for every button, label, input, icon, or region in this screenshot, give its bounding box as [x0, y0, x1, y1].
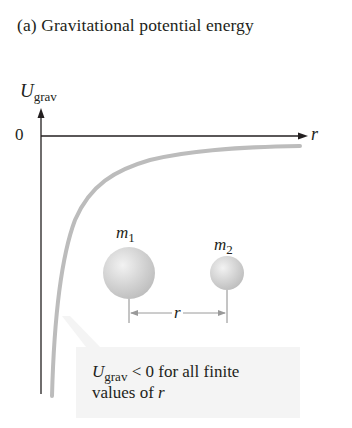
y-axis-label: Ugrav [20, 80, 57, 102]
x-axis-arrow-icon [298, 133, 308, 140]
y-axis-arrow-icon [38, 108, 45, 118]
mass-1-sphere [103, 247, 155, 299]
dimension-arrow-right-icon [218, 310, 226, 316]
mass-1-label: m1 [116, 223, 135, 243]
dimension-arrow-left-icon [130, 310, 138, 316]
caption-box: Ugrav < 0 for all finite values of r [76, 347, 300, 418]
caption-text: Ugrav < 0 for all finite values of r [92, 362, 239, 403]
mass-2-sphere [210, 256, 244, 290]
caption-pointer [62, 316, 100, 347]
x-axis-label: r [311, 124, 318, 145]
mass-2-label: m2 [214, 235, 233, 255]
separation-label: r [172, 303, 183, 323]
y-axis-zero-tick: 0 [15, 125, 24, 145]
